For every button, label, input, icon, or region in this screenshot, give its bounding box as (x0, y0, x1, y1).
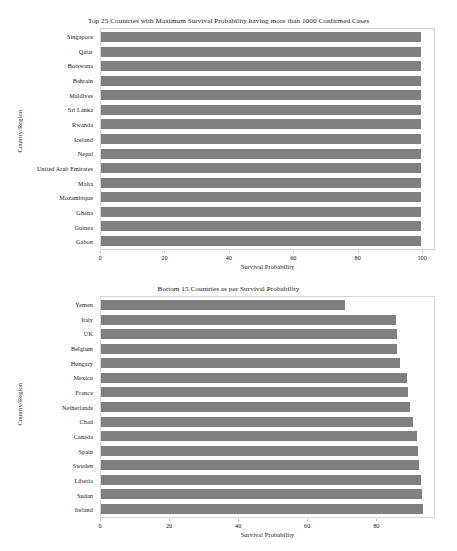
ylabel-row: Gabon (0, 234, 97, 249)
ylabel-text: Hungary (71, 360, 93, 367)
bottom-countries-chart: Bottom 15 Countries as per Survival Prob… (0, 278, 457, 551)
ylabel-text: Chad (80, 418, 93, 425)
ylabel-row: France (0, 385, 97, 400)
ylabel-text: Gabon (76, 238, 93, 245)
bar (101, 76, 421, 86)
ylabel-text: France (76, 389, 93, 396)
xtick-mark (422, 251, 423, 253)
bar-row (101, 385, 434, 400)
bottom-chart-ylabels: YemenItalyUKBelgiumHungaryMexicoFranceNe… (0, 296, 97, 518)
bar-row (101, 204, 434, 219)
bar-row (101, 327, 434, 342)
ylabel-text: Singapore (67, 33, 93, 40)
ylabel-row: Guinea (0, 220, 97, 235)
bar-row (101, 219, 434, 234)
ylabel-row: United Arab Emirates (0, 161, 97, 176)
ylabel-text: Iceland (74, 136, 93, 143)
bar (101, 90, 421, 100)
ylabel-row: Ireland (0, 502, 97, 517)
bar (101, 119, 421, 129)
bar-row (101, 472, 434, 487)
ylabel-row: Mozambique (0, 190, 97, 205)
ylabel-text: Mozambique (59, 194, 93, 201)
bar-row (101, 132, 434, 147)
ylabel-row: Sweden (0, 458, 97, 473)
bar-row (101, 400, 434, 415)
bar-row (101, 175, 434, 190)
ylabel-text: Guinea (75, 224, 93, 231)
xtick-mark (100, 519, 101, 521)
ylabel-row: Sri Lanka (0, 102, 97, 117)
bar-row (101, 190, 434, 205)
xtick-mark (164, 251, 165, 253)
ylabel-text: Yemen (75, 301, 93, 308)
xtick-label: 0 (98, 254, 101, 261)
ylabel-text: Belgium (71, 345, 93, 352)
ylabel-text: Italy (81, 316, 93, 323)
top-chart-ylabels: SingaporeQatarBotswanaBahrainMaldivesSri… (0, 28, 97, 250)
ylabel-text: Rwanda (72, 121, 93, 128)
xtick-mark (238, 519, 239, 521)
bar (101, 417, 413, 427)
bar (101, 475, 421, 485)
xtick-mark (169, 519, 170, 521)
bar (101, 315, 396, 325)
bar (101, 47, 421, 57)
bar-row (101, 443, 434, 458)
bar (101, 163, 421, 173)
xtick-mark (100, 251, 101, 253)
ylabel-text: Ghana (76, 209, 93, 216)
ylabel-text: Netherlands (62, 404, 93, 411)
ylabel-row: Maldives (0, 88, 97, 103)
xtick-label: 20 (166, 522, 172, 529)
ylabel-row: Iceland (0, 132, 97, 147)
bar-row (101, 88, 434, 103)
bar (101, 221, 421, 231)
ylabel-row: Hungary (0, 356, 97, 371)
ylabel-row: Rwanda (0, 117, 97, 132)
ylabel-text: UK (84, 330, 93, 337)
ylabel-text: Canada (74, 433, 93, 440)
bar-row (101, 233, 434, 248)
bar-row (101, 45, 434, 60)
xtick-mark (293, 251, 294, 253)
xtick-mark (376, 519, 377, 521)
ylabel-row: Liberia (0, 473, 97, 488)
ylabel-row: Malta (0, 176, 97, 191)
top-chart-title: Top 25 Countries with Maximum Survival P… (0, 17, 457, 25)
bottom-chart-bars (101, 297, 434, 517)
ylabel-row: UK (0, 326, 97, 341)
bar (101, 504, 423, 514)
xtick-label: 0 (98, 522, 101, 529)
top-countries-chart: Top 25 Countries with Maximum Survival P… (0, 0, 457, 278)
bar-row (101, 146, 434, 161)
bar-row (101, 458, 434, 473)
ylabel-row: Belgium (0, 341, 97, 356)
bar (101, 134, 421, 144)
xtick-mark (358, 251, 359, 253)
bottom-chart-ylabels-inner: YemenItalyUKBelgiumHungaryMexicoFranceNe… (0, 296, 97, 518)
bar (101, 192, 421, 202)
bar (101, 431, 417, 441)
ylabel-text: Maldives (69, 92, 93, 99)
bar-row (101, 313, 434, 328)
bar-row (101, 414, 434, 429)
bar (101, 105, 421, 115)
bar-row (101, 30, 434, 45)
ylabel-row: Italy (0, 312, 97, 327)
bar (101, 32, 421, 42)
ylabel-text: Spain (78, 448, 93, 455)
xtick-label: 100 (417, 254, 426, 261)
bar (101, 149, 421, 159)
bar-row (101, 117, 434, 132)
ylabel-row: Sudan (0, 488, 97, 503)
top-chart-plot-area (100, 28, 435, 250)
bar-row (101, 356, 434, 371)
ylabel-row: Canada (0, 429, 97, 444)
ylabel-text: Bahrain (73, 77, 93, 84)
xtick-label: 60 (290, 254, 296, 261)
bar-row (101, 59, 434, 74)
ylabel-text: Sudan (77, 492, 93, 499)
bar-row (101, 74, 434, 89)
ylabel-row: Mexico (0, 370, 97, 385)
